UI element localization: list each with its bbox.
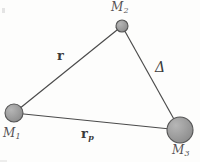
mass-body-m1 [5, 104, 23, 122]
mass-label-m1-subscript: 1 [15, 132, 20, 141]
vector-label-r-text: r [57, 48, 64, 63]
vector-diagram-figure: M1 M2 M3 r Δ rp [0, 0, 200, 162]
mass-body-m2 [116, 20, 128, 32]
mass-label-m3-subscript: 3 [184, 149, 189, 158]
vector-label-rp-text: r [81, 126, 88, 141]
mass-label-m3-text: M [172, 143, 184, 157]
vector-label-delta: Δ [155, 60, 165, 74]
mass-body-m3 [167, 117, 193, 143]
vector-label-delta-text: Δ [155, 59, 165, 75]
mass-label-m2-subscript: 2 [123, 6, 128, 15]
mass-label-m1-text: M [3, 126, 15, 140]
vector-label-rp: rp [81, 127, 94, 141]
vector-lines [14, 26, 180, 130]
mass-bodies [5, 20, 193, 143]
mass-label-m3: M3 [172, 144, 190, 158]
vector-label-r: r [57, 49, 64, 62]
mass-label-m2-text: M [111, 0, 123, 14]
vector-label-rp-subscript: p [88, 132, 94, 142]
vector-line-delta [122, 26, 180, 130]
vector-line-r [14, 26, 122, 113]
diagram-canvas [0, 0, 200, 162]
mass-label-m2: M2 [111, 1, 129, 15]
mass-label-m1: M1 [3, 127, 21, 141]
vector-line-rp [14, 113, 180, 130]
